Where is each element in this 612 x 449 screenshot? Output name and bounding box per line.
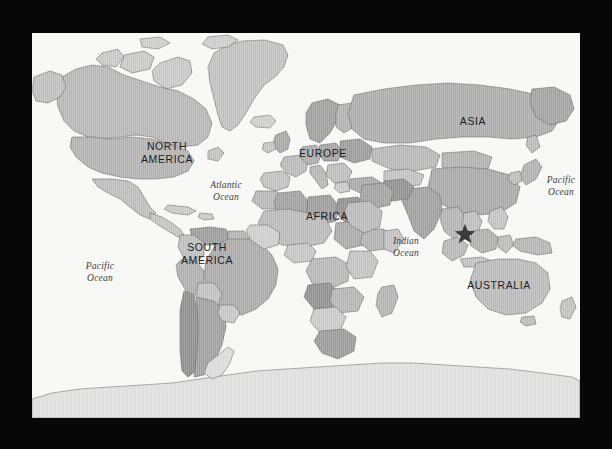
texture-overlay — [32, 33, 580, 418]
screenshot-root: NORTH AMERICA SOUTH AMERICA EUROPE AFRIC… — [0, 0, 612, 449]
world-map-canvas: NORTH AMERICA SOUTH AMERICA EUROPE AFRIC… — [32, 33, 580, 418]
world-map-svg — [32, 33, 580, 418]
